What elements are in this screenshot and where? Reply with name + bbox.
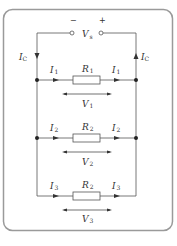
supply-current-label-right: IC	[140, 52, 150, 62]
resistor-1	[73, 76, 100, 84]
voltage-arrow-right-icon	[107, 93, 112, 96]
resistor-2	[73, 134, 100, 142]
current-arrow-icon	[53, 194, 59, 198]
current-arrow-icon	[53, 136, 59, 140]
branch-current-in-label: I1	[49, 65, 58, 75]
resistor-3	[73, 192, 100, 200]
branch-voltage-label: V3	[82, 214, 94, 224]
voltage-arrow-right-icon	[107, 151, 112, 154]
current-arrow-icon	[114, 136, 120, 140]
resistor-label: R1	[81, 64, 94, 74]
resistor-label: R2	[81, 122, 94, 132]
branch-voltage-label: V2	[82, 157, 94, 167]
voltage-arrow-left-icon	[62, 151, 67, 154]
current-arrow-icon	[114, 194, 120, 198]
junction-node	[134, 78, 138, 82]
current-arrow-icon	[53, 78, 59, 82]
branch-current-out-label: I1	[111, 65, 120, 75]
source-minus-sign: −	[70, 16, 77, 25]
branch-current-out-label: I3	[111, 181, 121, 191]
voltage-arrow-left-icon	[62, 209, 67, 212]
source-voltage-label: Vs	[82, 29, 93, 40]
supply-current-label-left: IC	[18, 52, 28, 62]
branch-2: I2 I2 R2 V2	[35, 122, 138, 167]
supply-current-arrow-up-icon	[134, 53, 139, 59]
supply-current-arrow-down-icon	[35, 53, 40, 59]
junction-node	[134, 136, 138, 140]
source-terminal-negative	[70, 31, 74, 35]
source-plus-sign: +	[99, 16, 106, 25]
junction-node	[35, 78, 39, 82]
voltage-arrow-left-icon	[62, 93, 67, 96]
branch-current-out-label: I2	[111, 123, 121, 133]
current-arrow-icon	[114, 78, 120, 82]
resistor-label: R2	[81, 180, 94, 190]
junction-node	[35, 136, 39, 140]
branch-current-in-label: I2	[49, 123, 59, 133]
branch-3: I3 I3 R2 V3	[37, 180, 136, 224]
branch-current-in-label: I3	[49, 181, 59, 191]
branch-1: I1 I1 R1 V1	[35, 64, 138, 109]
voltage-arrow-right-icon	[107, 209, 112, 212]
circuit-diagram: − + Vs IC IC I1 I1 R1 V1 I2 I2 R2	[0, 0, 177, 246]
branch-voltage-label: V1	[82, 99, 93, 109]
source-terminal-positive	[99, 31, 103, 35]
